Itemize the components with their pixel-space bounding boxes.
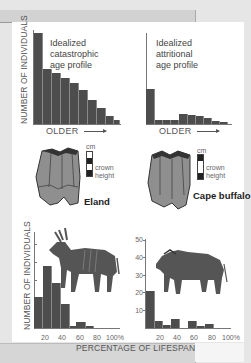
catastrophic-title-line-2: catastrophic xyxy=(50,49,99,60)
arrow-right-icon xyxy=(84,131,106,132)
buffalo-scale-label-line-2: height xyxy=(206,172,225,180)
attritional-title: Idealized attritional age profile xyxy=(156,38,198,71)
eland-x-axis xyxy=(34,328,120,329)
x-tick-label: 20 xyxy=(156,334,164,341)
x-tick-label: 20 xyxy=(41,334,49,341)
catastrophic-x-axis xyxy=(33,124,121,125)
catastrophic-title: Idealized catastrophic age profile xyxy=(50,38,99,71)
buffalo-x-axis xyxy=(145,328,231,329)
bar xyxy=(88,100,97,124)
bar xyxy=(97,108,106,124)
bar xyxy=(61,304,70,328)
eland-tooth-icon xyxy=(34,147,84,207)
bar xyxy=(188,115,196,124)
buffalo-tooth-icon xyxy=(146,149,196,211)
older-text: OLDER xyxy=(159,126,192,136)
bottom-left-y-axis-label: NUMBER OF INDIVIDUALS xyxy=(22,221,32,330)
x-tick-label: 80 xyxy=(93,334,101,341)
y-tick xyxy=(34,280,37,281)
bar xyxy=(146,291,155,328)
bar xyxy=(79,90,88,124)
bar xyxy=(179,114,188,124)
attritional-x-axis xyxy=(146,124,232,125)
eland-scale-label-line-1: crown xyxy=(95,164,114,172)
eland-label: Eland xyxy=(84,196,110,207)
catastrophic-title-line-3: age profile xyxy=(50,60,99,71)
top-left-y-axis-label: NUMBER OF INDIVIDUALS xyxy=(19,15,29,124)
bar xyxy=(106,116,114,124)
bar xyxy=(43,69,52,124)
x-tick-label: 60 xyxy=(76,334,84,341)
x-tick-label: 80 xyxy=(208,334,216,341)
bar xyxy=(155,321,163,328)
bar xyxy=(52,73,61,124)
y-tick xyxy=(143,257,146,258)
bar xyxy=(188,321,197,328)
y-tick xyxy=(143,275,146,276)
x-tick-label: 40 xyxy=(58,334,66,341)
attritional-older-label: OLDER xyxy=(159,126,219,136)
x-tick-label: 100% xyxy=(222,334,240,341)
buffalo-scale-bar xyxy=(197,154,204,180)
bar xyxy=(52,283,61,328)
y-tick-label: 10 xyxy=(129,307,143,314)
eland-scale-label-line-2: height xyxy=(95,172,114,180)
attritional-title-line-3: age profile xyxy=(156,60,198,71)
buffalo-scale-label-line-1: crown xyxy=(206,164,225,172)
bar xyxy=(61,78,70,124)
bottom-right-margin xyxy=(195,343,244,362)
y-tick xyxy=(143,240,146,241)
x-tick-label: 40 xyxy=(173,334,181,341)
bar xyxy=(70,83,79,124)
y-tick-label: 40 xyxy=(129,254,143,261)
bar xyxy=(196,116,204,124)
buffalo-label: Cape buffalo xyxy=(193,190,251,201)
y-tick-label: 20 xyxy=(129,289,143,296)
buffalo-scale-unit: cm xyxy=(197,147,206,155)
buffalo-silhouette-icon xyxy=(154,248,228,298)
bottom-x-axis-label: PERCENTAGE OF LIFESPAN xyxy=(76,343,195,353)
x-tick-label: 100% xyxy=(106,334,124,341)
y-tick-label: 50 xyxy=(129,236,143,243)
attritional-title-line-1: Idealized xyxy=(156,38,198,49)
bar xyxy=(34,33,43,124)
attritional-title-line-2: attritional xyxy=(156,49,198,60)
y-tick xyxy=(34,244,37,245)
bar xyxy=(146,89,155,124)
bar xyxy=(43,266,52,328)
x-tick-label: 60 xyxy=(190,334,198,341)
eland-scale-bar xyxy=(86,151,93,177)
catastrophic-older-label: OLDER xyxy=(46,126,106,136)
catastrophic-title-line-1: Idealized xyxy=(50,38,99,49)
y-tick-label: 30 xyxy=(129,272,143,279)
eland-scale-unit: cm xyxy=(86,143,95,151)
eland-scale-label: crown height xyxy=(95,164,114,180)
y-tick xyxy=(34,262,37,263)
older-text: OLDER xyxy=(46,126,79,136)
bar xyxy=(171,319,180,328)
buffalo-scale-label: crown height xyxy=(206,164,225,180)
bar xyxy=(34,297,43,328)
arrow-right-icon xyxy=(197,131,219,132)
